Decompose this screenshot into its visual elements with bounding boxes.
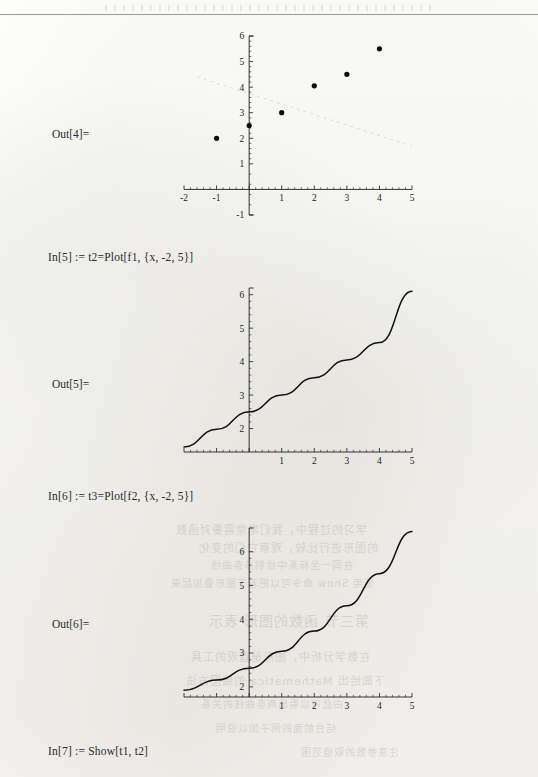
svg-text:4: 4	[239, 357, 244, 367]
header-ghost-marks	[105, 5, 435, 11]
svg-text:2: 2	[239, 424, 244, 434]
svg-text:1: 1	[239, 159, 244, 169]
svg-text:-1: -1	[236, 210, 244, 220]
svg-text:5: 5	[410, 193, 415, 203]
svg-text:6: 6	[239, 31, 244, 41]
svg-text:4: 4	[377, 193, 382, 203]
svg-text:2: 2	[312, 456, 317, 466]
out-label-5: Out[5]=	[52, 378, 89, 390]
svg-text:1: 1	[279, 456, 284, 466]
svg-text:2: 2	[239, 134, 244, 144]
in-cell-5[interactable]: In[5] := t2=Plot[f1, {x, -2, 5}]	[48, 251, 193, 263]
svg-text:4: 4	[377, 456, 382, 466]
svg-text:3: 3	[239, 391, 244, 401]
svg-text:4: 4	[239, 83, 244, 93]
svg-text:3: 3	[344, 701, 349, 711]
svg-text:3: 3	[344, 193, 349, 203]
svg-text:5: 5	[410, 456, 415, 466]
svg-text:2: 2	[239, 682, 244, 692]
svg-text:5: 5	[239, 324, 244, 334]
svg-text:3: 3	[239, 648, 244, 658]
svg-text:6: 6	[239, 547, 244, 557]
bleed-text: 注意参数的取值范围	[300, 744, 399, 759]
line-chart-out6: 1234523456	[162, 518, 422, 723]
svg-text:4: 4	[377, 701, 382, 711]
svg-text:6: 6	[239, 290, 244, 300]
out-label-4: Out[4]=	[52, 128, 89, 140]
svg-text:2: 2	[312, 701, 317, 711]
svg-text:5: 5	[239, 57, 244, 67]
svg-text:3: 3	[239, 108, 244, 118]
svg-text:5: 5	[239, 581, 244, 591]
svg-text:5: 5	[410, 701, 415, 711]
svg-text:1: 1	[279, 193, 284, 203]
out-label-6: Out[6]=	[52, 618, 89, 630]
page-header-rule	[0, 14, 538, 15]
svg-text:-2: -2	[180, 193, 188, 203]
line-chart-out5: 1234523456	[162, 278, 422, 478]
svg-text:1: 1	[279, 701, 284, 711]
in-cell-7[interactable]: In[7] := Show[t1, t2]	[48, 745, 148, 757]
plot-out5: 1234523456	[162, 278, 422, 478]
svg-text:3: 3	[344, 456, 349, 466]
svg-text:2: 2	[312, 193, 317, 203]
in-cell-6[interactable]: In[6] := t3=Plot[f2, {x, -2, 5}]	[48, 490, 193, 502]
plot-out4: -2-112345-1123456	[162, 26, 422, 241]
scatter-chart-out4: -2-112345-1123456	[162, 26, 422, 241]
plot-out6: 1234523456	[162, 518, 422, 723]
svg-text:-1: -1	[213, 193, 221, 203]
svg-text:4: 4	[239, 615, 244, 625]
